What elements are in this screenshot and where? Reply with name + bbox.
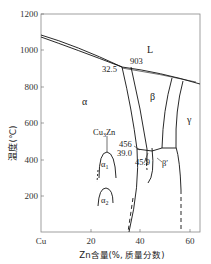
x-tick-cu: Cu: [36, 236, 47, 246]
liquidus-line: [41, 35, 200, 84]
phase-boundaries: [41, 35, 200, 232]
x-axis-title: Zn含量(%, 质量分数): [79, 250, 164, 260]
y-axis: 1200 1000 800 600 400 200 温度(℃): [7, 9, 44, 201]
x-axis: Cu 20 40 60 Zn含量(%, 质量分数): [36, 229, 195, 260]
x-tick-60: 60: [186, 236, 196, 246]
solidus-line: [41, 37, 122, 67]
label-beta: β: [150, 91, 155, 102]
alpha1-dashed: [97, 170, 98, 182]
label-gamma: γ: [186, 114, 192, 125]
gamma-left-boundary: [176, 81, 183, 190]
x-tick-40: 40: [136, 236, 146, 246]
y-tick-1000: 1000: [20, 45, 39, 55]
y-tick-1200: 1200: [20, 9, 39, 19]
annot-32-5: 32.5: [102, 64, 117, 74]
label-cu3zn: Cu3Zn: [93, 127, 116, 138]
annot-39-0: 39.0: [117, 148, 132, 158]
x-tick-20: 20: [87, 236, 97, 246]
annot-903: 903: [130, 56, 143, 66]
label-alpha1: α1: [101, 159, 108, 170]
label-liquid: L: [147, 44, 153, 55]
y-tick-800: 800: [25, 82, 39, 92]
annot-45-9: 45.9: [135, 157, 150, 167]
y-tick-400: 400: [25, 155, 39, 165]
y-tick-600: 600: [25, 118, 39, 128]
y-tick-200: 200: [25, 191, 39, 201]
phase-diagram: 1200 1000 800 600 400 200 温度(℃) Cu 20 40…: [0, 0, 211, 264]
label-alpha: α: [82, 96, 88, 107]
label-beta-prime: β′: [162, 158, 168, 168]
beta-left-boundary: [131, 67, 147, 149]
isotherm-456: [137, 148, 176, 151]
y-axis-title: 温度(℃): [7, 125, 18, 160]
beta-right-boundary: [162, 78, 172, 148]
label-alpha2: α2: [101, 195, 108, 206]
